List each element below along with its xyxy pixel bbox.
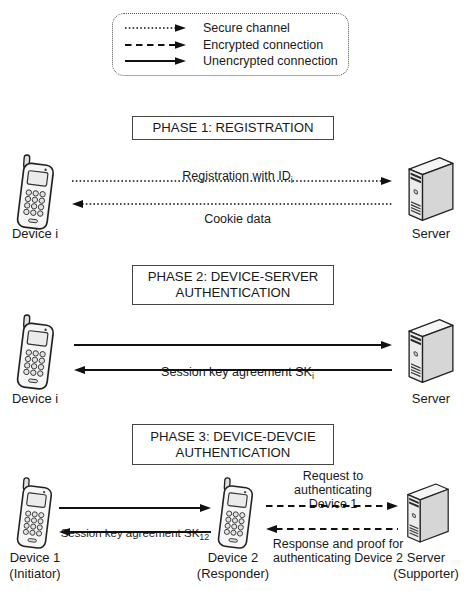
dashed-arrow-icon (124, 40, 186, 50)
dotted-arrow-icon (124, 23, 186, 33)
response-arrow-left (266, 524, 398, 534)
legend-item-label: Unencrypted connection (203, 54, 338, 68)
server-icon (403, 312, 459, 390)
phase2-device-label: Device i (4, 391, 66, 407)
request-arrow-right (266, 501, 398, 511)
legend-item-unencrypted: Unencrypted connection (124, 54, 348, 68)
solid-arrow-icon (124, 56, 186, 66)
phase1-title: PHASE 1: REGISTRATION (132, 116, 334, 140)
phase1-device-label: Device i (4, 226, 66, 242)
session-key-arrow-right (74, 340, 392, 350)
phase1-server-label: Server (400, 226, 462, 242)
phase3-title: PHASE 3: DEVICE-DEVCIE AUTHENTICATION (132, 424, 334, 465)
protocol-diagram: Secure channel Encrypted connection Unen… (0, 0, 465, 591)
cookie-data-message: Cookie data (95, 212, 380, 226)
legend-box: Secure channel Encrypted connection Unen… (112, 13, 349, 76)
registration-arrow (72, 176, 392, 186)
phase2-server-label: Server (400, 391, 462, 407)
phase2-title: PHASE 2: DEVICE-SERVER AUTHENTICATION (132, 265, 334, 305)
phone-icon (12, 314, 60, 392)
legend-item-secure: Secure channel (124, 21, 348, 35)
device1-initiator-label: Device 1 (Initiator) (2, 550, 68, 581)
phone-icon (13, 477, 57, 551)
cookie-data-arrow (72, 199, 392, 209)
legend-item-label: Encrypted connection (203, 38, 323, 52)
legend-item-label: Secure channel (203, 21, 290, 35)
legend-item-encrypted: Encrypted connection (124, 38, 348, 52)
server-supporter-label: Server (Supporter) (388, 550, 464, 581)
session-key-arrow-left (74, 365, 392, 375)
device2-responder-label: Device 2 (Responder) (192, 550, 274, 581)
phone-icon (214, 477, 258, 551)
session-key12-arrow-left (59, 527, 211, 537)
phone-icon (12, 154, 60, 232)
server-icon (403, 150, 459, 228)
server-icon (402, 477, 454, 549)
